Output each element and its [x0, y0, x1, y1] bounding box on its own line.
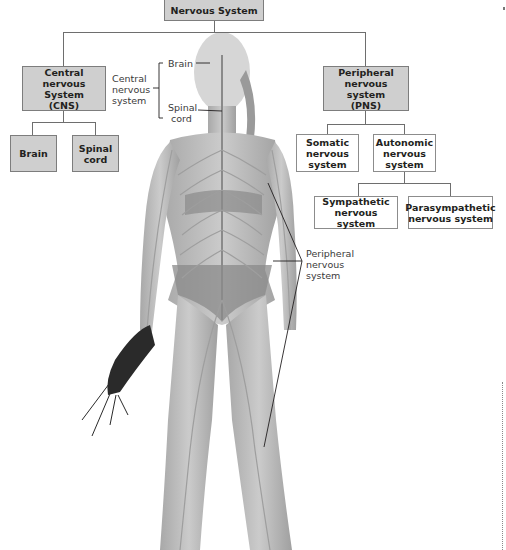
pns-leader-arm [268, 183, 302, 261]
callout-leader-lines [0, 0, 506, 550]
page-corner-mark [503, 7, 505, 10]
page-edge-dotted-line [502, 382, 503, 550]
pns-leader-leg [264, 261, 302, 447]
cns-bracket [159, 63, 163, 118]
spinal-cord-leader [198, 110, 222, 111]
